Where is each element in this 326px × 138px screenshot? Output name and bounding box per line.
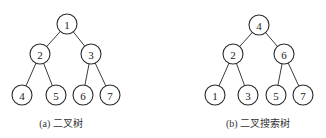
tree-edge [236,63,244,85]
tree-node-2: 2 [223,44,243,64]
node-label: 2 [37,49,43,61]
binary-search-tree: 4261357 [205,15,313,105]
node-label: 4 [256,20,262,32]
tree-edge [288,63,299,86]
tree-edge [47,31,61,46]
tree-node-5: 5 [266,85,286,105]
tree-node-4: 4 [249,15,269,35]
caption-binary-tree: (a) 二叉树 [39,115,83,130]
tree-node-3: 3 [81,44,101,64]
tree-edge [278,64,282,85]
node-label: 7 [107,90,113,102]
tree-edge [240,32,253,46]
tree-node-1: 1 [205,85,225,105]
node-label: 4 [19,90,25,102]
tree-node-7: 7 [293,85,313,105]
node-label: 6 [281,49,287,61]
tree-node-1: 1 [57,14,77,34]
node-label: 3 [88,49,94,61]
tree-edge [219,63,229,86]
node-label: 3 [245,90,251,102]
tree-node-4: 4 [12,85,32,105]
tree-node-2: 2 [30,44,50,64]
node-label: 6 [80,90,86,102]
node-label: 1 [212,90,218,102]
tree-node-3: 3 [238,85,258,105]
tree-node-6: 6 [73,85,93,105]
caption-binary-search-tree: (b) 二叉搜索树 [226,115,290,130]
tree-edge [44,63,53,85]
node-label: 2 [230,49,236,61]
node-label: 1 [64,19,70,31]
node-label: 5 [273,90,279,102]
node-label: 7 [300,90,306,102]
tree-edge [73,32,85,46]
node-label: 5 [53,90,59,102]
tree-node-6: 6 [274,44,294,64]
tree-edge [95,63,106,86]
tree-edge [26,63,36,86]
binary-tree: 1234567 [12,14,120,105]
tree-edge [266,33,278,47]
tree-node-7: 7 [100,85,120,105]
tree-node-5: 5 [46,85,66,105]
tree-edge [85,64,89,85]
